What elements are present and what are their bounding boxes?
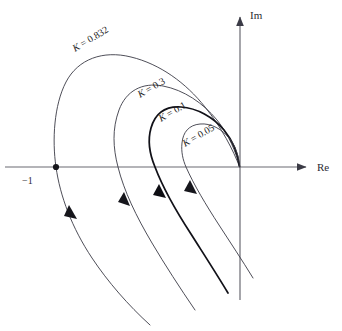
minus-one-label: −1 [22,175,33,186]
nyquist-plot-figure: Re Im −1 K = 0 [0,0,342,331]
plot-canvas: Re Im −1 K = 0 [0,0,342,331]
curve-k-005-group [182,124,253,278]
re-axis-label: Re [317,161,329,173]
im-axis-label: Im [250,9,263,21]
curve-k-005-label: K = 0.05 [180,122,217,149]
minus-one-point [53,164,59,170]
curve-k-0832-label: K = 0.832 [70,24,111,54]
curve-k-03-group [114,85,240,310]
curve-k-03-direction-arrow [118,192,130,206]
curve-k-03-label: K = 0.3 [135,75,167,100]
curve-k-005-direction-arrow [184,180,197,194]
axes-group: Re Im [5,9,329,300]
curve-k-0832-label-value: 0.832 [85,24,110,45]
curve-k-03 [114,85,240,310]
curve-k-01-label: K = 0.1 [156,99,188,124]
curve-labels-group: K = 0.832 K = 0.3 K = 0.1 K = 0.05 [70,24,217,149]
curve-k-005 [182,124,253,278]
